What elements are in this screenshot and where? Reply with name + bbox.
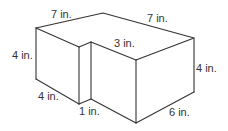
label-right-height: 4 in. [196, 63, 217, 74]
prism-drawing [0, 0, 228, 131]
label-top-left-edge: 7 in. [51, 9, 72, 20]
l-shaped-prism-diagram: 7 in. 7 in. 4 in. 3 in. 4 in. 4 in. 1 in… [0, 0, 228, 131]
label-bottom-left-edge: 4 in. [38, 91, 59, 102]
label-notch-width: 1 in. [79, 106, 100, 117]
notch-face [79, 42, 91, 104]
label-notch-depth: 3 in. [114, 38, 135, 49]
label-bottom-right-edge: 6 in. [169, 107, 190, 118]
label-top-right-edge: 7 in. [147, 13, 168, 24]
label-left-height: 4 in. [12, 50, 33, 61]
